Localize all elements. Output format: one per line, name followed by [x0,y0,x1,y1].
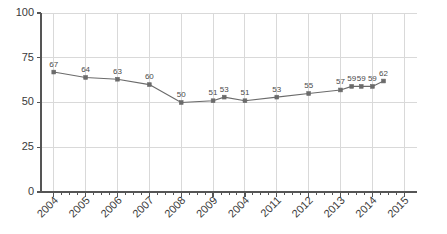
data-point-label: 51 [240,88,249,97]
data-point-label: 55 [304,81,313,90]
data-point-label: 64 [81,65,90,74]
data-point-label: 67 [49,60,58,69]
data-point-label: 60 [145,72,154,81]
y-axis-tick-label: 0 [28,185,34,197]
data-point-label: 59 [368,74,377,83]
data-point-marker [222,95,226,99]
data-point-marker [211,99,215,103]
y-axis-tick-label: 25 [22,140,34,152]
data-point-label: 59 [357,74,366,83]
data-point-label: 51 [209,88,218,97]
y-axis-tick-label: 50 [22,95,34,107]
data-point-label: 53 [272,85,281,94]
data-point-marker [179,101,183,105]
chart-canvas: 0255075100 20042005200620072008200920042… [0,0,447,234]
data-point-marker [350,84,354,88]
data-point-label: 62 [379,69,388,78]
y-axis-tick-label: 100 [16,6,34,18]
chart-background [0,0,447,234]
data-point-marker [370,84,374,88]
data-point-marker [307,92,311,96]
data-point-label: 53 [220,85,229,94]
data-point-label: 57 [336,77,345,86]
y-axis-tick-label: 75 [22,51,34,63]
line-chart: 0255075100 20042005200620072008200920042… [0,0,447,234]
data-point-marker [339,88,343,92]
data-point-marker [116,77,120,81]
data-point-marker [359,84,363,88]
data-point-marker [84,76,88,80]
data-point-label: 50 [177,90,186,99]
data-point-marker [382,79,386,83]
data-point-marker [243,99,247,103]
data-point-marker [275,95,279,99]
data-point-label: 59 [347,74,356,83]
data-point-marker [147,83,151,87]
data-point-label: 63 [113,67,122,76]
data-point-marker [52,70,56,74]
